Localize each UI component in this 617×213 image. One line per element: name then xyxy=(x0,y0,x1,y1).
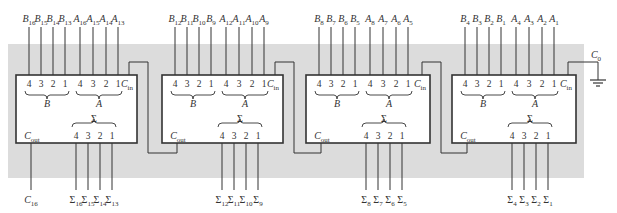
input-label-A3: A3 xyxy=(523,13,534,27)
pin-number: 1 xyxy=(552,79,557,89)
sum-group-label: Σ xyxy=(237,113,243,124)
pin-number: 3 xyxy=(527,79,532,89)
input-label-B5: B5 xyxy=(350,13,360,27)
input-label-A6: A6 xyxy=(390,13,401,27)
pin-number: 2 xyxy=(487,79,492,89)
pin-number: 1 xyxy=(406,79,411,89)
pin-number: 3 xyxy=(329,79,334,89)
input-label-A1: A1 xyxy=(548,13,559,27)
pin-number: 3 xyxy=(86,131,91,141)
input-label-A10: A10 xyxy=(244,13,259,27)
pin-number: 2 xyxy=(104,79,109,89)
c0-label: C0 xyxy=(591,49,602,63)
b-group-label: B xyxy=(44,98,50,109)
pin-number: 3 xyxy=(522,131,527,141)
sum-output-label-5: Σ5 xyxy=(397,194,407,208)
input-label-A12: A12 xyxy=(218,13,233,27)
pin-number: 4 xyxy=(78,79,83,89)
pin-number: 4 xyxy=(364,131,369,141)
pin-number: 3 xyxy=(381,79,386,89)
sum-group-label: Σ xyxy=(527,113,533,124)
pin-number: 4 xyxy=(27,79,32,89)
pin-number: 1 xyxy=(209,79,214,89)
input-label-A7: A7 xyxy=(377,13,388,27)
pin-number: 4 xyxy=(317,79,322,89)
pin-number: 2 xyxy=(98,131,103,141)
pin-number: 3 xyxy=(39,79,44,89)
pin-number: 1 xyxy=(353,79,358,89)
input-label-B13: B13 xyxy=(58,13,72,27)
pin-number: 1 xyxy=(256,131,261,141)
pin-number: 1 xyxy=(63,79,68,89)
sum-output-label-3: Σ3 xyxy=(519,194,529,208)
b-group-label: B xyxy=(334,98,340,109)
input-label-B2: B2 xyxy=(484,13,494,27)
carry-out-c16-label: C16 xyxy=(24,194,38,208)
input-label-A2: A2 xyxy=(536,13,547,27)
pin-number: 4 xyxy=(463,79,468,89)
input-label-A5: A5 xyxy=(402,13,413,27)
pin-number: 1 xyxy=(499,79,504,89)
sum-output-label-7: Σ7 xyxy=(373,194,383,208)
pin-number: 3 xyxy=(376,131,381,141)
sum-output-label-4: Σ4 xyxy=(507,194,517,208)
pin-number: 2 xyxy=(540,79,545,89)
pin-number: 4 xyxy=(224,79,229,89)
sum-group-label: Σ xyxy=(91,113,97,124)
input-label-A9: A9 xyxy=(258,13,269,27)
pin-number: 3 xyxy=(237,79,242,89)
input-label-B8: B8 xyxy=(314,13,324,27)
pin-number: 4 xyxy=(510,131,515,141)
pin-number: 2 xyxy=(250,79,255,89)
pin-number: 1 xyxy=(546,131,551,141)
pin-number: 3 xyxy=(232,131,237,141)
input-label-A8: A8 xyxy=(364,13,375,27)
pin-number: 2 xyxy=(244,131,249,141)
input-label-B4: B4 xyxy=(460,13,470,27)
sum-output-label-9: Σ9 xyxy=(253,194,263,208)
b-group-label: B xyxy=(480,98,486,109)
input-label-B1: B1 xyxy=(496,13,506,27)
input-label-A11: A11 xyxy=(232,13,246,27)
pin-number: 2 xyxy=(51,79,56,89)
input-label-A15: A15 xyxy=(85,13,100,27)
adder-diagram: B164B153B142B131A164A153A142A131BACin4Σ1… xyxy=(0,0,617,213)
sum-group-label: Σ xyxy=(381,113,387,124)
pin-number: 1 xyxy=(110,131,115,141)
sum-output-label-2: Σ2 xyxy=(531,194,541,208)
pin-number: 2 xyxy=(534,131,539,141)
sum-output-label-13: Σ13 xyxy=(106,194,119,208)
pin-number: 1 xyxy=(262,79,267,89)
sum-output-label-10: Σ10 xyxy=(240,194,253,208)
a-group-label: A xyxy=(241,98,249,109)
sum-output-label-6: Σ6 xyxy=(385,194,395,208)
pin-number: 4 xyxy=(368,79,373,89)
a-group-label: A xyxy=(385,98,393,109)
pin-number: 4 xyxy=(220,131,225,141)
pin-number: 4 xyxy=(514,79,519,89)
pin-number: 2 xyxy=(388,131,393,141)
pin-number: 1 xyxy=(400,131,405,141)
pin-number: 2 xyxy=(394,79,399,89)
pin-number: 2 xyxy=(341,79,346,89)
sum-output-label-1: Σ1 xyxy=(543,194,553,208)
input-label-B3: B3 xyxy=(472,13,482,27)
input-label-A16: A16 xyxy=(72,13,87,27)
input-label-B6: B6 xyxy=(338,13,348,27)
pin-number: 3 xyxy=(475,79,480,89)
input-label-A13: A13 xyxy=(110,13,125,27)
pin-number: 3 xyxy=(185,79,190,89)
b-group-label: B xyxy=(190,98,196,109)
pin-number: 1 xyxy=(116,79,121,89)
pin-number: 3 xyxy=(91,79,96,89)
pin-number: 4 xyxy=(173,79,178,89)
input-label-B10: B10 xyxy=(192,13,206,27)
a-group-label: A xyxy=(531,98,539,109)
input-label-B7: B7 xyxy=(326,13,336,27)
input-label-B9: B9 xyxy=(206,13,216,27)
ground-icon xyxy=(590,80,606,86)
pin-number: 2 xyxy=(197,79,202,89)
sum-output-label-8: Σ8 xyxy=(361,194,371,208)
input-label-A4: A4 xyxy=(510,13,521,27)
pin-number: 4 xyxy=(74,131,79,141)
